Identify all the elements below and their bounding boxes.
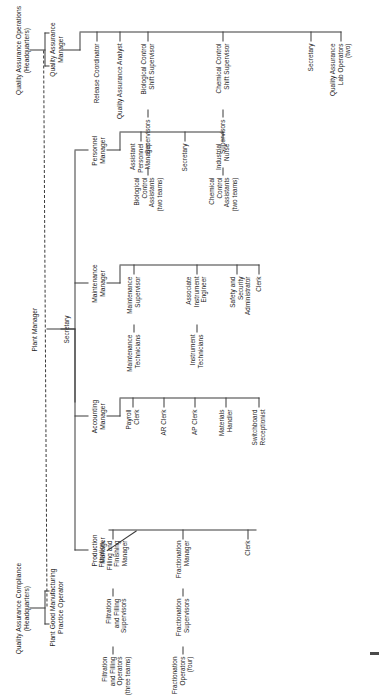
production-clerk-tick — [247, 529, 248, 539]
accounting-report-3: Materials Handler — [217, 409, 232, 455]
safety-admin-tick — [236, 264, 237, 274]
fractionation-supervisors-node: Fractionation Supervisors — [174, 598, 189, 646]
accounting-report-1: AR Clerk — [159, 409, 167, 455]
biological-link-2 — [147, 167, 148, 175]
maintenance-supervisor-link — [133, 324, 134, 332]
accounting-tick-0 — [132, 397, 133, 407]
chemical-assistants-node: Chemical Control Assistants (two teams) — [207, 177, 237, 225]
gmp-operator-node: Plant Good Manufacturing Practice Operat… — [48, 560, 64, 654]
personnel-report-1: Secretary — [180, 143, 188, 191]
accounting-drop — [74, 415, 88, 416]
qa-secretary-node: Secretary — [306, 43, 314, 91]
personnel-manager-node: Personnel Manager — [90, 118, 106, 182]
maintenance-supervisor-tick — [133, 264, 134, 274]
instrument-engineer-tick — [196, 264, 197, 274]
production-drop — [74, 549, 88, 550]
filtration-supervisors-node: Filtration and Filling Supervisors — [104, 598, 127, 646]
gmp-hq-connector-vertical — [29, 607, 45, 608]
accounting-report-0: Payroll Clerk — [124, 409, 139, 455]
accounting-tick-4 — [258, 397, 259, 407]
biological-shift-supervisor-node: Biological Control Shift Supervisor — [139, 43, 154, 109]
accounting-manager-node: Accounting Manager — [90, 384, 106, 448]
safety-admin-node: Safety and Security Administrator — [228, 276, 251, 324]
filtration-link-2 — [112, 646, 113, 654]
gmp-hq-connector-horizontal — [44, 590, 45, 624]
release-coordinator-node: Release Coordinator — [92, 43, 100, 127]
qa-lab-operators-node: Quality Assurance Lab Operators (two) — [328, 43, 351, 113]
fractionation-link-1 — [182, 588, 183, 596]
chemical-supervisors-node: Supervisors — [218, 119, 226, 167]
chemical-link-2 — [222, 167, 223, 175]
gmp-hq-bracket-left — [44, 623, 49, 624]
personnel-tick-0 — [140, 131, 141, 141]
maintenance-technicians-node: Maintenance Technicians — [125, 334, 140, 382]
qa-manager-node: Quality Assurance Manager — [48, 8, 64, 90]
chemical-shift-supervisor-tick — [222, 31, 223, 41]
filtration-link-1 — [112, 588, 113, 596]
fractionation-link-2 — [182, 646, 183, 654]
fractionation-operators-node: Fractionation Operators (four) — [170, 656, 193, 699]
personnel-drop — [74, 149, 88, 150]
qa-children-bracket — [79, 31, 341, 32]
biological-assistants-node: Biological Control Assistants (two teams… — [132, 177, 162, 225]
accounting-tick-2 — [194, 397, 195, 407]
accounting-tick-3 — [225, 397, 226, 407]
fractionation-manager-node: Fractionation Manager — [174, 540, 189, 588]
chemical-link-1 — [222, 109, 223, 117]
qa-hq-bracket-left — [44, 65, 49, 66]
personnel-stem — [106, 149, 120, 150]
biological-shift-supervisor-tick — [147, 31, 148, 41]
hq-qa-operations-label: Quality Assurance Operations (Headquarte… — [14, 2, 30, 98]
plant-manager-node: Plant Manager — [30, 294, 38, 364]
maintenance-clerk-tick — [258, 264, 259, 274]
qa-secretary-tick — [310, 31, 311, 41]
maintenance-children-bracket — [119, 264, 259, 265]
accounting-stem — [106, 415, 120, 416]
qa-stem-elbow — [79, 32, 80, 50]
scan-corner-mark — [370, 652, 379, 655]
chemical-shift-supervisor-node: Chemical Control Shift Supervisor — [214, 43, 229, 109]
personnel-children-bracket — [119, 131, 223, 132]
hq-qa-compliance-label: Quality Assurance Compliance (Headquarte… — [14, 560, 30, 656]
maintenance-stem — [106, 282, 120, 283]
maintenance-supervisor-node: Maintenance Supervisor — [125, 276, 140, 324]
filtration-operators-node: Filtration and Filling Operators (three … — [100, 656, 130, 699]
accounting-stem-elbow — [119, 398, 120, 416]
functional-managers-bracket — [74, 150, 75, 550]
instrument-engineer-node: Associate Instrument Engineer — [184, 276, 207, 324]
release-coordinator-tick — [96, 31, 97, 41]
personnel-stem-elbow — [119, 132, 120, 150]
qa-hq-bracket-right — [44, 32, 49, 33]
accounting-children-bracket — [119, 397, 259, 398]
qa-analyst-tick — [119, 31, 120, 41]
qa-lab-operators-tick — [340, 31, 341, 41]
accounting-report-4: Switchboard Receptionist — [250, 409, 265, 463]
filtration-manager-tick — [112, 529, 113, 539]
biological-supervisors-node: Supervisors — [143, 119, 151, 167]
fractionation-manager-tick — [182, 529, 183, 539]
accounting-report-2: AP Clerk — [190, 409, 198, 455]
biological-link-1 — [147, 109, 148, 117]
qa-analyst-node: Quality Assurance Analyst — [115, 43, 123, 127]
maintenance-manager-node: Maintenance Manager — [90, 251, 106, 315]
maintenance-drop — [74, 282, 88, 283]
personnel-tick-1 — [184, 131, 185, 141]
instrument-engineer-link — [196, 324, 197, 332]
secretary-tick — [60, 328, 74, 329]
filtration-manager-node: Filtration, Filling and Finishing Manage… — [97, 540, 127, 588]
accounting-tick-1 — [163, 397, 164, 407]
maintenance-stem-elbow — [119, 265, 120, 283]
production-clerk-node: Clerk — [243, 540, 251, 568]
qa-stem — [62, 49, 80, 50]
instrument-technicians-node: Instrument Technicians — [188, 334, 203, 382]
maintenance-clerk-node: Clerk — [254, 276, 262, 308]
